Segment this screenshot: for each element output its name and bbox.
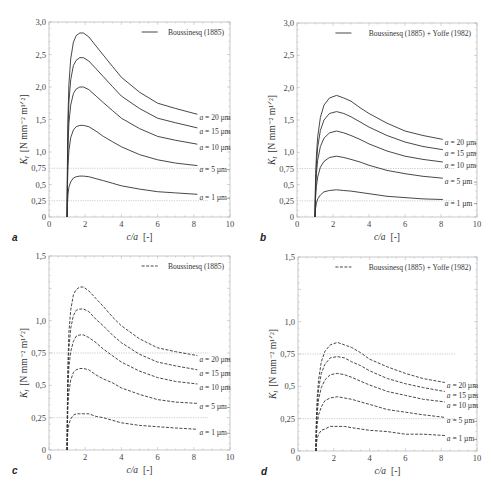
panel-letter: d [261,466,268,477]
y-tick-label: 0,75 [280,349,295,359]
curve-label: a = 15 µm [199,127,230,136]
y-axis-title: KI[N mm⁻² m¹ᐟ²] [19,328,30,399]
y-tick-label: 3,0 [283,18,294,28]
x-tick-label: 6 [155,219,159,229]
curve-label: a = 1 µm [447,434,475,443]
series-line [315,190,443,217]
x-tick-label: 4 [367,453,372,463]
x-tick-label: 2 [331,219,335,229]
curve-label: a = 1 µm [199,428,227,437]
series-line [67,335,197,450]
series-line [67,176,197,217]
series-line [67,309,197,450]
legend-label: Boussinesq (1885) [168,28,225,37]
y-tick-label: 1,0 [35,316,46,326]
y-tick-label: 0 [290,212,294,222]
y-tick-label: 0,25 [279,196,294,206]
x-tick-label: 2 [83,452,87,462]
y-tick-label: 0,5 [35,180,46,190]
x-tick-label: 10 [473,453,482,463]
x-tick-label: 0 [296,453,300,463]
curve-label: a = 10 µm [447,401,478,410]
x-tick-label: 0 [47,452,51,462]
series-line [67,369,197,451]
y-tick-label: 1,0 [284,317,295,327]
curve-label: a = 1 µm [199,193,227,202]
curve-label: a = 5 µm [199,165,227,174]
panel-letter: c [12,465,18,476]
series-line [315,131,443,217]
curve-label: a = 5 µm [447,416,475,425]
curve-label: a = 10 µm [199,143,230,152]
x-axis-title: c/a[-] [126,465,152,475]
x-tick-label: 10 [226,452,235,462]
x-tick-label: 6 [403,219,407,229]
x-tick-label: 0 [295,219,299,229]
x-axis-title: c/a[-] [126,232,152,242]
x-tick-label: 4 [367,219,372,229]
x-tick-label: 8 [192,219,196,229]
x-tick-label: 10 [473,219,482,229]
y-tick-label: 0,5 [35,380,46,390]
series-line [316,373,445,451]
y-tick-label: 2,5 [283,50,294,60]
panel-b: 024681000,250,50,751,01,52,02,53,0c/a[-]… [260,18,481,243]
y-axis-title: KI[N mm⁻² m¹ᐟ²] [19,95,30,166]
y-tick-label: 0,75 [31,348,46,358]
x-tick-label: 10 [226,219,235,229]
panel-letter: b [260,232,266,243]
x-tick-label: 2 [332,453,336,463]
legend-label: Boussinesq (1885) [168,262,225,271]
y-tick-label: 1,0 [283,147,294,157]
curve-label: a = 20 µm [445,138,476,147]
x-tick-label: 4 [119,219,124,229]
curve-label: a = 15 µm [445,149,476,158]
y-tick-label: 3,0 [35,17,46,27]
legend-label: Boussinesq (1885) + Yoffe (1982) [369,263,472,272]
y-tick-label: 0,25 [280,414,295,424]
y-tick-label: 0,25 [31,413,46,423]
y-tick-label: 0,25 [31,196,46,206]
x-axis-title: c/a[-] [374,466,400,476]
y-tick-label: 0,75 [279,164,294,174]
curve-label: a = 5 µm [199,402,227,411]
y-tick-label: 0,5 [284,381,295,391]
figure: 024681000,250,50,751,01,52,02,53,0c/a[-]… [0,0,496,493]
curve-label: a = 20 µm [199,355,230,364]
y-tick-label: 0,5 [283,180,294,190]
curve-label: a = 5 µm [445,177,473,186]
series-line [316,426,445,451]
series-line [316,357,445,451]
series-line [315,156,443,217]
y-tick-label: 2,5 [35,50,46,60]
y-tick-label: 1,5 [283,115,294,125]
x-tick-label: 2 [83,219,87,229]
x-tick-label: 6 [403,453,407,463]
curve-label: a = 20 µm [199,113,230,122]
panel-d: 024681000,250,50,751,01,5c/a[-]KI[N mm⁻²… [261,252,481,477]
y-axis-title: KI[N mm⁻² m¹ᐟ²] [268,329,279,400]
legend-label: Boussinesq (1885) + Yoffe (1982) [369,29,472,38]
curve-label: a = 10 µm [445,161,476,170]
curve-label: a = 20 µm [447,381,478,390]
series-line [316,397,445,451]
series-line [67,87,197,217]
y-tick-label: 0,75 [31,163,46,173]
x-tick-label: 0 [47,219,51,229]
curve-label: a = 15 µm [447,391,478,400]
y-tick-label: 1,5 [35,115,46,125]
curve-label: a = 1 µm [445,199,473,208]
y-tick-label: 1,0 [35,147,46,157]
x-tick-label: 6 [155,452,159,462]
panel-c: 024681000,250,50,751,01,5c/a[-]KI[N mm⁻²… [12,251,234,476]
y-tick-label: 1,5 [35,251,46,261]
x-tick-label: 8 [439,219,443,229]
series-line [67,414,197,450]
y-tick-label: 0 [291,446,295,456]
y-tick-label: 0 [42,212,46,222]
x-tick-label: 8 [439,453,443,463]
curve-label: a = 10 µm [199,383,230,392]
x-axis-title: c/a[-] [374,232,400,242]
y-tick-label: 2,0 [283,83,294,93]
y-tick-label: 1,5 [284,252,295,262]
